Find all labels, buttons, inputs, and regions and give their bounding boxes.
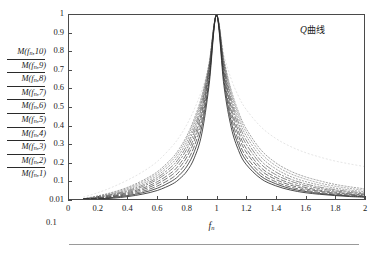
x-tick-mark (276, 196, 277, 200)
q-curve-figure: M(fn,10)M(fn,9)M(fn,8)M(fn,7)M(fn,6)M(fn… (0, 0, 386, 258)
curve-envelope-faint (84, 15, 364, 197)
x-tick-mark (335, 196, 336, 200)
x-tick-label: 0 (54, 204, 82, 213)
x-tick-mark (306, 196, 307, 200)
y-tick-mark (68, 126, 72, 127)
y-tick-mark (68, 107, 72, 108)
lower-origin-label: 0.1 (46, 218, 57, 227)
y-tick-label: 0.8 (34, 46, 64, 55)
y-tick-mark (68, 200, 72, 201)
x-tick-label: 1.4 (262, 204, 290, 213)
y-tick-mark (68, 163, 72, 164)
curve-mfn2 (84, 15, 364, 199)
x-tick-label: 1.8 (321, 204, 349, 213)
y-tick-mark (68, 88, 72, 89)
y-tick-label: 0.4 (34, 121, 64, 130)
y-tick-label: 0.5 (34, 102, 64, 111)
x-tick-label: 1.6 (292, 204, 320, 213)
x-tick-label: 1 (203, 204, 231, 213)
x-tick-label: 0.2 (84, 204, 112, 213)
curve-mfn8 (84, 15, 364, 199)
y-tick-mark (68, 70, 72, 71)
curve-mfn1 (84, 15, 364, 199)
x-tick-mark (246, 196, 247, 200)
q-symbol: Q (300, 25, 307, 35)
x-tick-mark (127, 196, 128, 200)
curve-mfn4 (84, 15, 364, 199)
y-tick-mark (68, 144, 72, 145)
x-tick-mark (187, 196, 188, 200)
y-tick-label: 0.6 (34, 83, 64, 92)
x-tick-label: 0.8 (173, 204, 201, 213)
curve-mfn6 (84, 15, 364, 199)
y-tick-mark (68, 181, 72, 182)
y-tick-mark (68, 33, 72, 34)
curves-svg (69, 15, 364, 199)
y-tick-label: 0.01 (34, 195, 64, 204)
x-tick-label: 1.2 (232, 204, 260, 213)
x-tick-mark (157, 196, 158, 200)
x-tick-mark (98, 196, 99, 200)
q-curve-annotation: Q曲线 (300, 25, 325, 36)
plot-area (68, 14, 365, 200)
y-tick-label: 0.1 (34, 176, 64, 185)
page-separator-rule (69, 244, 359, 245)
y-tick-mark (68, 51, 72, 52)
x-tick-mark (217, 196, 218, 200)
y-tick-label: 0.2 (34, 158, 64, 167)
y-tick-label: 0.3 (34, 139, 64, 148)
x-axis-title-sub: n (211, 224, 214, 231)
x-tick-label: 2 (351, 204, 379, 213)
x-tick-label: 0.4 (113, 204, 141, 213)
q-annotation-text: 曲线 (307, 25, 325, 35)
x-tick-mark (68, 196, 69, 200)
y-tick-label: 0.7 (34, 65, 64, 74)
curve-mfn9 (84, 15, 364, 199)
curve-mfn10 (84, 15, 364, 199)
y-tick-label: 0.9 (34, 28, 64, 37)
curve-mfn5 (84, 15, 364, 199)
x-axis-title: fn (209, 221, 215, 233)
y-tick-mark (68, 14, 72, 15)
y-series-label: M(fn,4) (0, 129, 46, 140)
x-tick-mark (365, 196, 366, 200)
curve-mfn7 (84, 15, 364, 199)
curve-mfn3 (84, 15, 364, 199)
x-tick-label: 0.6 (143, 204, 171, 213)
y-tick-label: 1 (34, 9, 64, 18)
